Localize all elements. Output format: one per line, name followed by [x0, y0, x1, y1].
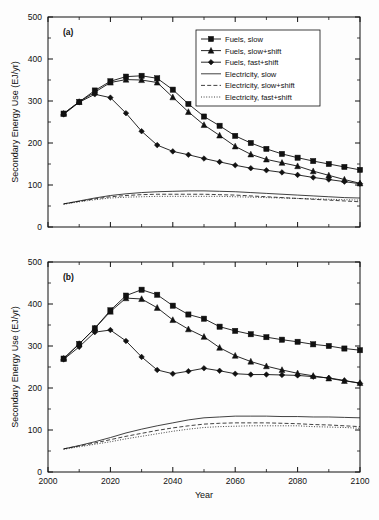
panel-label: (b) [63, 272, 74, 282]
data-point-triangle [201, 122, 207, 128]
data-point-square [186, 312, 191, 317]
series-line-fuels-fast-shift [64, 330, 360, 383]
data-point-square [264, 335, 269, 340]
y-tick-label: 500 [28, 257, 42, 267]
y-axis-title: Secondary Energy Use (EJ/yr) [10, 61, 20, 183]
y-tick-label: 0 [37, 222, 42, 232]
data-point-triangle [201, 334, 207, 340]
data-point-square [311, 158, 316, 163]
data-point-diamond [186, 368, 192, 374]
legend-label: Electricity, slow+shift [225, 81, 296, 90]
data-point-diamond [201, 156, 207, 162]
data-point-square [170, 87, 175, 92]
data-point-triangle [232, 143, 238, 149]
data-point-diamond [186, 152, 192, 158]
data-point-square [279, 151, 284, 156]
data-point-diamond [201, 365, 207, 371]
data-point-diamond [295, 172, 301, 178]
series-line-fuels-slow [64, 290, 360, 359]
data-point-triangle [217, 132, 223, 138]
data-point-square [208, 36, 213, 41]
data-point-diamond [310, 175, 316, 181]
legend-label: Fuels, fast+shift [225, 58, 279, 67]
data-point-diamond [279, 170, 285, 176]
data-point-square [248, 332, 253, 337]
data-point-square [326, 343, 331, 348]
legend: Fuels, slowFuels, slow+shiftFuels, fast+… [196, 30, 320, 106]
data-point-triangle [154, 305, 160, 311]
data-point-diamond [217, 159, 223, 165]
secondary-energy-use-chart: 0100200300400500(a)Secondary Energy Use … [0, 0, 379, 520]
data-point-square [155, 292, 160, 297]
panel-a: 0100200300400500(a)Secondary Energy Use … [10, 12, 363, 232]
data-point-diamond [264, 168, 270, 174]
data-point-diamond [232, 162, 238, 168]
panel-label: (a) [63, 27, 74, 37]
data-point-square [139, 287, 144, 292]
y-tick-label: 200 [28, 138, 42, 148]
data-point-square [217, 123, 222, 128]
x-tick-label: 2040 [163, 476, 182, 486]
data-point-square [217, 324, 222, 329]
data-point-square [357, 167, 362, 172]
data-point-diamond [248, 372, 254, 378]
data-point-square [233, 328, 238, 333]
series-markers-fuels-slow-shift [61, 295, 363, 386]
series-line-electricity-slow [64, 416, 360, 449]
data-point-square [248, 140, 253, 145]
data-point-square [279, 337, 284, 342]
data-point-diamond [108, 327, 114, 333]
x-tick-label: 2080 [288, 476, 307, 486]
data-point-square [201, 316, 206, 321]
x-tick-label: 2100 [351, 476, 370, 486]
x-tick-label: 2000 [39, 476, 58, 486]
data-point-square [233, 133, 238, 138]
data-point-diamond [170, 371, 176, 377]
series-line-electricity-fast-shift [64, 426, 360, 450]
data-point-square [264, 146, 269, 151]
panel-b: 0100200300400500200020202040206020802100… [10, 257, 370, 500]
data-point-square [295, 155, 300, 160]
data-point-square [201, 114, 206, 119]
y-tick-label: 100 [28, 425, 42, 435]
y-tick-label: 400 [28, 54, 42, 64]
y-tick-label: 400 [28, 299, 42, 309]
y-axis-title: Secondary Energy Use (EJ/yr) [10, 306, 20, 428]
data-point-square [186, 101, 191, 106]
data-point-diamond [279, 372, 285, 378]
legend-label: Fuels, slow+shift [225, 47, 282, 56]
series-markers-fuels-slow [61, 287, 363, 361]
data-point-triangle [217, 344, 223, 350]
data-point-diamond [217, 368, 223, 374]
data-point-square [170, 303, 175, 308]
figure-container: 0100200300400500(a)Secondary Energy Use … [0, 0, 379, 520]
series-line-fuels-fast-shift [64, 94, 360, 183]
y-tick-label: 300 [28, 96, 42, 106]
legend-label: Electricity, fast+shift [225, 93, 293, 102]
x-tick-label: 2020 [101, 476, 120, 486]
data-point-triangle [232, 352, 238, 358]
data-point-triangle [248, 151, 254, 157]
data-point-triangle [186, 326, 192, 332]
data-point-square [342, 346, 347, 351]
data-point-triangle [170, 317, 176, 323]
data-point-diamond [248, 165, 254, 171]
legend-label: Fuels, slow [225, 35, 263, 44]
series-line-electricity-slow-shift [64, 423, 360, 449]
y-tick-label: 500 [28, 12, 42, 22]
data-point-square [295, 339, 300, 344]
data-point-square [311, 342, 316, 347]
data-point-diamond [170, 149, 176, 155]
legend-label: Electricity, slow [225, 70, 277, 79]
x-axis-title: Year [195, 490, 213, 500]
data-point-square [357, 348, 362, 353]
x-tick-label: 2060 [226, 476, 245, 486]
data-point-diamond [232, 371, 238, 377]
y-tick-label: 100 [28, 180, 42, 190]
y-tick-label: 300 [28, 341, 42, 351]
data-point-square [342, 164, 347, 169]
data-point-square [326, 161, 331, 166]
data-point-diamond [264, 372, 270, 378]
y-tick-label: 200 [28, 383, 42, 393]
series-line-electricity-fast-shift [64, 196, 360, 204]
